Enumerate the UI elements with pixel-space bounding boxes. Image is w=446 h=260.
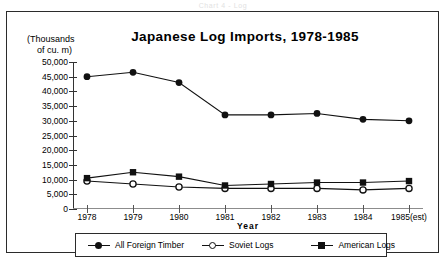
chart-frame: (Thousands of cu. m) Japanese Log Import… bbox=[6, 11, 439, 253]
y-axis-tick bbox=[69, 150, 77, 151]
y-axis-tick-label: 40,000 bbox=[26, 86, 68, 96]
plot-area: 05,00010,00015,00020,00025,00030,00035,0… bbox=[73, 62, 423, 209]
legend-item-american-logs: American Logs bbox=[311, 240, 395, 250]
chart-title: Japanese Log Imports, 1978-1985 bbox=[95, 29, 395, 44]
data-point-marker bbox=[406, 178, 412, 184]
y-axis-tick-label: 50,000 bbox=[26, 57, 68, 67]
data-point-marker bbox=[176, 173, 182, 179]
data-point-marker bbox=[130, 181, 136, 187]
y-axis-tick bbox=[69, 209, 77, 210]
y-axis-unit-caption: (Thousands of cu. m) bbox=[27, 34, 75, 56]
data-point-marker bbox=[222, 112, 229, 119]
y-axis-tick-label: 15,000 bbox=[26, 160, 68, 170]
data-point-marker bbox=[268, 112, 275, 119]
data-point-marker bbox=[176, 184, 182, 190]
y-axis-tick bbox=[69, 194, 77, 195]
chart-screenshot: Chart 4 - Log (Thousands of cu. m) Japan… bbox=[0, 0, 446, 260]
data-point-marker bbox=[360, 116, 367, 123]
data-point-marker bbox=[360, 179, 366, 185]
y-axis-tick bbox=[69, 136, 77, 137]
y-axis-tick bbox=[69, 165, 77, 166]
y-axis-tick bbox=[69, 180, 77, 181]
data-point-marker bbox=[268, 181, 274, 187]
data-point-marker bbox=[314, 179, 320, 185]
y-axis-tick-label: 25,000 bbox=[26, 131, 68, 141]
legend-label: Soviet Logs bbox=[229, 240, 273, 250]
y-axis-tick bbox=[69, 77, 77, 78]
data-point-marker bbox=[314, 110, 321, 117]
y-axis-tick-label: 30,000 bbox=[26, 116, 68, 126]
series-layer bbox=[73, 62, 423, 209]
data-point-marker bbox=[406, 185, 412, 191]
data-point-marker bbox=[406, 117, 413, 124]
legend-item-soviet-logs: Soviet Logs bbox=[202, 240, 273, 250]
data-point-marker bbox=[84, 73, 91, 80]
y-axis-tick-label: 45,000 bbox=[26, 72, 68, 82]
data-point-marker bbox=[314, 185, 320, 191]
data-point-marker bbox=[84, 175, 90, 181]
y-axis-tick-label: 20,000 bbox=[26, 145, 68, 155]
y-axis-tick-label: 0 bbox=[26, 204, 68, 214]
filled-circle-icon bbox=[88, 240, 110, 250]
y-axis-tick-label: 5,000 bbox=[26, 189, 68, 199]
data-point-marker bbox=[360, 187, 366, 193]
y-axis-tick bbox=[69, 106, 77, 107]
filled-square-icon bbox=[311, 240, 333, 250]
data-point-marker bbox=[222, 182, 228, 188]
y-axis-tick-label: 10,000 bbox=[26, 175, 68, 185]
legend-label: All Foreign Timber bbox=[115, 240, 184, 250]
unit-line-1: (Thousands bbox=[27, 34, 75, 44]
series-line bbox=[87, 72, 409, 121]
legend-item-all-foreign-timber: All Foreign Timber bbox=[88, 240, 184, 250]
open-circle-icon bbox=[202, 240, 224, 250]
data-point-marker bbox=[130, 169, 136, 175]
x-axis-title: Year bbox=[73, 221, 423, 231]
y-axis-tick bbox=[69, 121, 77, 122]
y-axis-tick-label: 35,000 bbox=[26, 101, 68, 111]
unit-line-2: of cu. m) bbox=[27, 45, 75, 56]
data-point-marker bbox=[176, 79, 183, 86]
chart-legend: All Foreign Timber Soviet Logs American … bbox=[75, 233, 387, 257]
y-axis-tick bbox=[69, 91, 77, 92]
y-axis-tick bbox=[69, 62, 77, 63]
legend-label: American Logs bbox=[338, 240, 395, 250]
data-point-marker bbox=[130, 69, 137, 76]
